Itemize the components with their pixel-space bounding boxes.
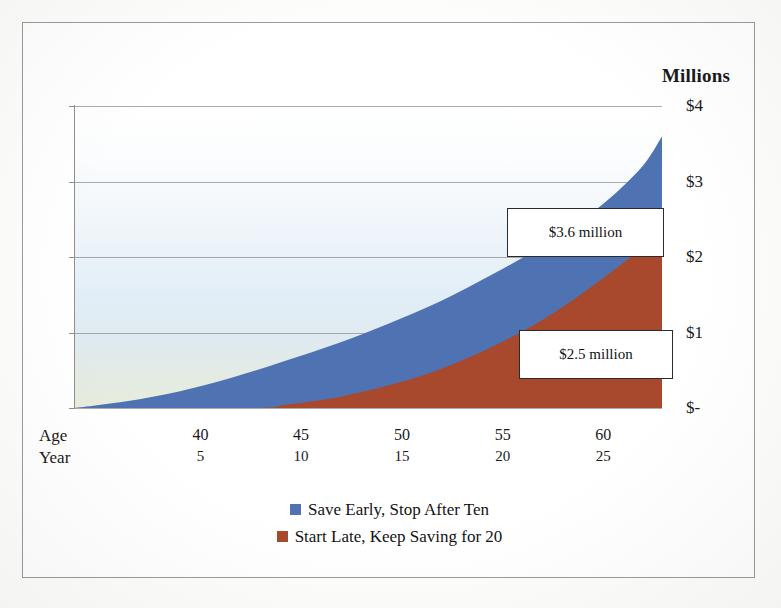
y-axis-label: $2: [686, 247, 703, 267]
legend-item[interactable]: Start Late, Keep Saving for 20: [23, 523, 756, 550]
legend-swatch-icon: [277, 531, 288, 542]
y-axis-label: $4: [686, 96, 703, 116]
scanned-page: Millions $4$3$2$1$- $3.6 million $2.5 mi…: [0, 0, 781, 608]
x-axis-row-year-title: Year: [39, 448, 70, 468]
x-axis-row-year: Year 510152025: [23, 448, 756, 471]
chart-legend: Save Early, Stop After TenStart Late, Ke…: [23, 496, 756, 550]
x-axis-tick-age: 45: [293, 426, 309, 444]
legend-item[interactable]: Save Early, Stop After Ten: [23, 496, 756, 523]
y-axis-label: $-: [686, 398, 700, 418]
x-axis-tick-age: 60: [595, 426, 611, 444]
x-axis-row-age-title: Age: [39, 426, 67, 446]
y-axis-tick: [69, 408, 75, 409]
callout-save-early: $3.6 million: [507, 208, 664, 257]
x-axis-tick-year: 20: [495, 448, 510, 465]
x-axis-tick-year: 15: [395, 448, 410, 465]
legend-label: Save Early, Stop After Ten: [308, 500, 489, 520]
x-axis-row-age: Age 4045505560: [23, 426, 756, 449]
chart-frame: Millions $4$3$2$1$- $3.6 million $2.5 mi…: [22, 22, 755, 578]
legend-label: Start Late, Keep Saving for 20: [295, 527, 503, 547]
legend-swatch-icon: [290, 504, 301, 515]
x-axis: Age 4045505560 Year 510152025: [23, 426, 756, 476]
chart-title: Millions: [662, 65, 730, 87]
y-axis-label: $3: [686, 172, 703, 192]
x-axis-tick-year: 5: [197, 448, 205, 465]
callout-start-late: $2.5 million: [519, 330, 673, 379]
y-axis-labels: $4$3$2$1$-: [672, 106, 742, 408]
y-axis-label: $1: [686, 323, 703, 343]
x-axis-tick-age: 40: [192, 426, 208, 444]
x-axis-tick-year: 25: [596, 448, 611, 465]
x-axis-tick-year: 10: [293, 448, 308, 465]
x-axis-tick-age: 55: [495, 426, 511, 444]
gridline: [74, 408, 662, 409]
x-axis-tick-age: 50: [394, 426, 410, 444]
